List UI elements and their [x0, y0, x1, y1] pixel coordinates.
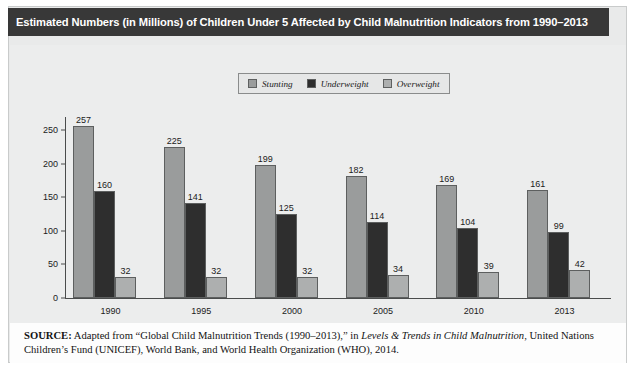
bar-group-2010: 169104392010: [428, 117, 519, 298]
bar-stunting-2000[interactable]: 199: [255, 165, 276, 298]
source-note-text: SOURCE: Adapted from “Global Child Malnu…: [24, 329, 612, 356]
bar-value-label: 182: [348, 165, 363, 175]
bar-stunting-2010[interactable]: 169: [436, 185, 457, 298]
bar-overweight-2010[interactable]: 39: [478, 272, 499, 298]
legend-item-overweight[interactable]: Overweight: [383, 79, 440, 89]
bar-value-label: 39: [484, 261, 494, 271]
figure-container: StuntingUnderweightOverweight 0501001502…: [8, 6, 627, 363]
bar-underweight-2010[interactable]: 104: [457, 228, 478, 298]
legend-item-underweight[interactable]: Underweight: [307, 79, 369, 89]
bar-value-label: 161: [530, 179, 545, 189]
legend-swatch-icon: [248, 79, 257, 88]
bar-stunting-1995[interactable]: 225: [164, 147, 185, 298]
x-axis-tick-label-2000: 2000: [282, 306, 302, 316]
x-axis-tick-label-2013: 2013: [555, 306, 575, 316]
bar-value-label: 199: [258, 154, 273, 164]
bar-value-label: 141: [188, 192, 203, 202]
legend-label: Underweight: [321, 79, 369, 89]
bar-value-label: 225: [167, 136, 182, 146]
bar-underweight-2000[interactable]: 125: [276, 214, 297, 298]
x-axis-line: [65, 298, 611, 299]
bar-stunting-2005[interactable]: 182: [346, 176, 367, 298]
x-axis-tick-label-1995: 1995: [191, 306, 211, 316]
bar-value-label: 169: [439, 174, 454, 184]
bar-value-label: 42: [575, 259, 585, 269]
source-note: SOURCE: Adapted from “Global Child Malnu…: [10, 323, 626, 363]
bar-group-2013: 16199422013: [519, 117, 610, 298]
source-part-1: Adapted from “Global Child Malnutrition …: [72, 330, 362, 341]
bar-overweight-2000[interactable]: 32: [297, 277, 318, 298]
legend-swatch-icon: [383, 79, 392, 88]
chart-title: Estimated Numbers (in Millions) of Child…: [8, 16, 588, 28]
bar-overweight-1995[interactable]: 32: [206, 277, 227, 298]
bar-group-2005: 182114342005: [338, 117, 429, 298]
legend-label: Overweight: [397, 79, 440, 89]
bar-group-2000: 199125322000: [247, 117, 338, 298]
plot-area: 0501001502002502571603219902251413219951…: [65, 117, 610, 298]
bar-underweight-1995[interactable]: 141: [185, 203, 206, 298]
chart-legend: StuntingUnderweightOverweight: [238, 73, 450, 94]
bar-group-1995: 225141321995: [156, 117, 247, 298]
legend-swatch-icon: [307, 79, 316, 88]
bar-stunting-2013[interactable]: 161: [527, 190, 548, 298]
bar-overweight-2005[interactable]: 34: [388, 275, 409, 298]
bar-overweight-2013[interactable]: 42: [569, 270, 590, 298]
legend-item-stunting[interactable]: Stunting: [248, 79, 293, 89]
legend-label: Stunting: [262, 79, 293, 89]
bar-value-label: 114: [370, 211, 384, 221]
source-publication-title: Levels & Trends in Child Malnutrition: [361, 330, 524, 341]
bar-value-label: 32: [302, 266, 312, 276]
bar-underweight-2013[interactable]: 99: [548, 232, 569, 298]
bar-value-label: 104: [460, 217, 475, 227]
bar-overweight-1990[interactable]: 32: [115, 277, 136, 298]
bar-group-1990: 257160321990: [65, 117, 156, 298]
x-axis-tick-label-2005: 2005: [373, 306, 393, 316]
source-lead: SOURCE:: [24, 330, 72, 341]
bar-value-label: 257: [76, 115, 91, 125]
bar-underweight-1990[interactable]: 160: [94, 191, 115, 298]
bar-value-label: 32: [120, 266, 130, 276]
bar-value-label: 125: [279, 203, 294, 213]
bar-underweight-2005[interactable]: 114: [367, 222, 388, 298]
chart-panel: StuntingUnderweightOverweight 0501001502…: [10, 45, 626, 323]
x-axis-tick-label-1990: 1990: [100, 306, 120, 316]
bar-value-label: 99: [554, 221, 564, 231]
bar-stunting-1990[interactable]: 257: [73, 126, 94, 298]
x-axis-tick-label-2010: 2010: [464, 306, 484, 316]
bar-value-label: 160: [97, 180, 112, 190]
bar-value-label: 32: [211, 266, 221, 276]
bar-value-label: 34: [393, 264, 403, 274]
chart-title-bar: Estimated Numbers (in Millions) of Child…: [8, 8, 609, 36]
